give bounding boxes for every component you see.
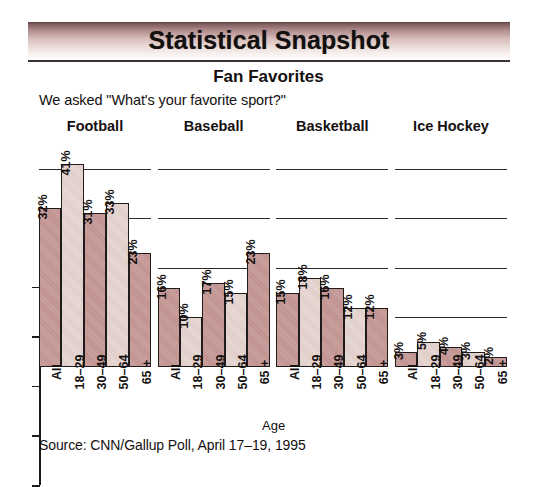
bar[interactable]: 41%	[61, 164, 83, 367]
x-axis-tick-label: 18–29	[180, 370, 202, 416]
panel-title: Baseball	[158, 118, 270, 134]
x-axis-tick-labels: All18–2930–4950–6465 +	[276, 370, 388, 416]
bar-value-label: 23%	[126, 240, 140, 265]
x-axis-tick-label: 65 +	[129, 370, 151, 416]
bar-value-label: 4%	[437, 337, 451, 355]
panel-grid: 3%5%4%3%2%	[395, 144, 507, 367]
bar-value-label: 12%	[363, 294, 377, 319]
bar-value-label: 10%	[177, 304, 191, 329]
bar-value-label: 23%	[244, 240, 258, 265]
chart-panel-football: Football32%41%31%33%23%All18–2930–4950–6…	[39, 118, 151, 383]
chart-panel-basketball: Basketball15%18%16%12%12%All18–2930–4950…	[276, 118, 388, 383]
bar-value-label: 41%	[59, 150, 73, 175]
bar-value-label: 31%	[81, 200, 95, 225]
bar[interactable]: 32%	[39, 208, 61, 367]
bar-value-label: 32%	[36, 195, 50, 220]
bar-group: 3%5%4%3%2%	[395, 144, 507, 367]
x-axis-tick-label: 30–49	[440, 370, 462, 416]
bar-value-label: 15%	[274, 279, 288, 304]
x-axis-tick-labels: All18–2930–4950–6465 +	[158, 370, 270, 416]
bar[interactable]: 15%	[276, 293, 298, 367]
panel-title: Football	[39, 118, 151, 134]
x-axis-tick-label: All	[39, 370, 61, 416]
x-axis-tick-label: 30–49	[202, 370, 224, 416]
chart-subtitle: Fan Favorites	[0, 67, 537, 87]
source-note: Source: CNN/Gallup Poll, April 17–19, 19…	[39, 437, 306, 453]
panel-grid: 32%41%31%33%23%	[39, 144, 151, 367]
x-axis-tick-label: 50–64	[462, 370, 484, 416]
page-title: Statistical Snapshot	[28, 22, 510, 59]
bar-value-label: 15%	[222, 279, 236, 304]
panel-title: Ice Hockey	[395, 118, 507, 134]
bar-value-label: 5%	[415, 332, 429, 350]
bar-group: 32%41%31%33%23%	[39, 144, 151, 367]
chart-area: Football32%41%31%33%23%All18–2930–4950–6…	[39, 118, 507, 383]
bar-value-label: 18%	[296, 264, 310, 289]
x-axis-tick-label: All	[276, 370, 298, 416]
x-axis-tick-label: All	[395, 370, 417, 416]
bar[interactable]: 23%	[129, 253, 151, 367]
bar-group: 16%10%17%15%23%	[158, 144, 270, 367]
x-axis-tick-labels: All18–2930–4950–6465 +	[395, 370, 507, 416]
x-axis-tick-label: 50–64	[344, 370, 366, 416]
panel-title: Basketball	[276, 118, 388, 134]
bar-value-label: 16%	[318, 274, 332, 299]
header-divider	[28, 60, 510, 62]
bar-value-label: 17%	[200, 269, 214, 294]
x-axis-tick-label: 50–64	[106, 370, 128, 416]
x-axis-tick-label: 65 +	[247, 370, 269, 416]
bar[interactable]: 12%	[366, 308, 388, 367]
bar-value-label: 3%	[392, 342, 406, 360]
x-axis-tick-label: 30–49	[321, 370, 343, 416]
x-axis-tick-label: 18–29	[61, 370, 83, 416]
chart-panel-ice-hockey: Ice Hockey3%5%4%3%2%All18–2930–4950–6465…	[395, 118, 507, 383]
chart-panel-baseball: Baseball16%10%17%15%23%All18–2930–4950–6…	[158, 118, 270, 383]
y-axis-tick	[32, 485, 40, 487]
x-axis-tick-label: 65 +	[485, 370, 507, 416]
x-axis-tick-label: 30–49	[84, 370, 106, 416]
x-axis-label: Age	[262, 418, 285, 433]
bar-value-label: 12%	[341, 294, 355, 319]
panel-grid: 15%18%16%12%12%	[276, 144, 388, 367]
bar[interactable]: 23%	[247, 253, 269, 367]
bar-value-label: 33%	[103, 190, 117, 215]
bar[interactable]: 31%	[84, 213, 106, 367]
bar-value-label: 16%	[155, 274, 169, 299]
x-axis-tick-label: 50–64	[225, 370, 247, 416]
x-axis-tick-label: All	[158, 370, 180, 416]
bar-group: 15%18%16%12%12%	[276, 144, 388, 367]
x-axis-tick-labels: All18–2930–4950–6465 +	[39, 370, 151, 416]
panel-grid: 16%10%17%15%23%	[158, 144, 270, 367]
x-axis-tick-label: 65 +	[366, 370, 388, 416]
x-axis-tick-label: 18–29	[417, 370, 439, 416]
chart-question: We asked "What's your favorite sport?"	[39, 92, 286, 108]
x-axis-tick-label: 18–29	[299, 370, 321, 416]
bar[interactable]: 33%	[106, 203, 128, 367]
